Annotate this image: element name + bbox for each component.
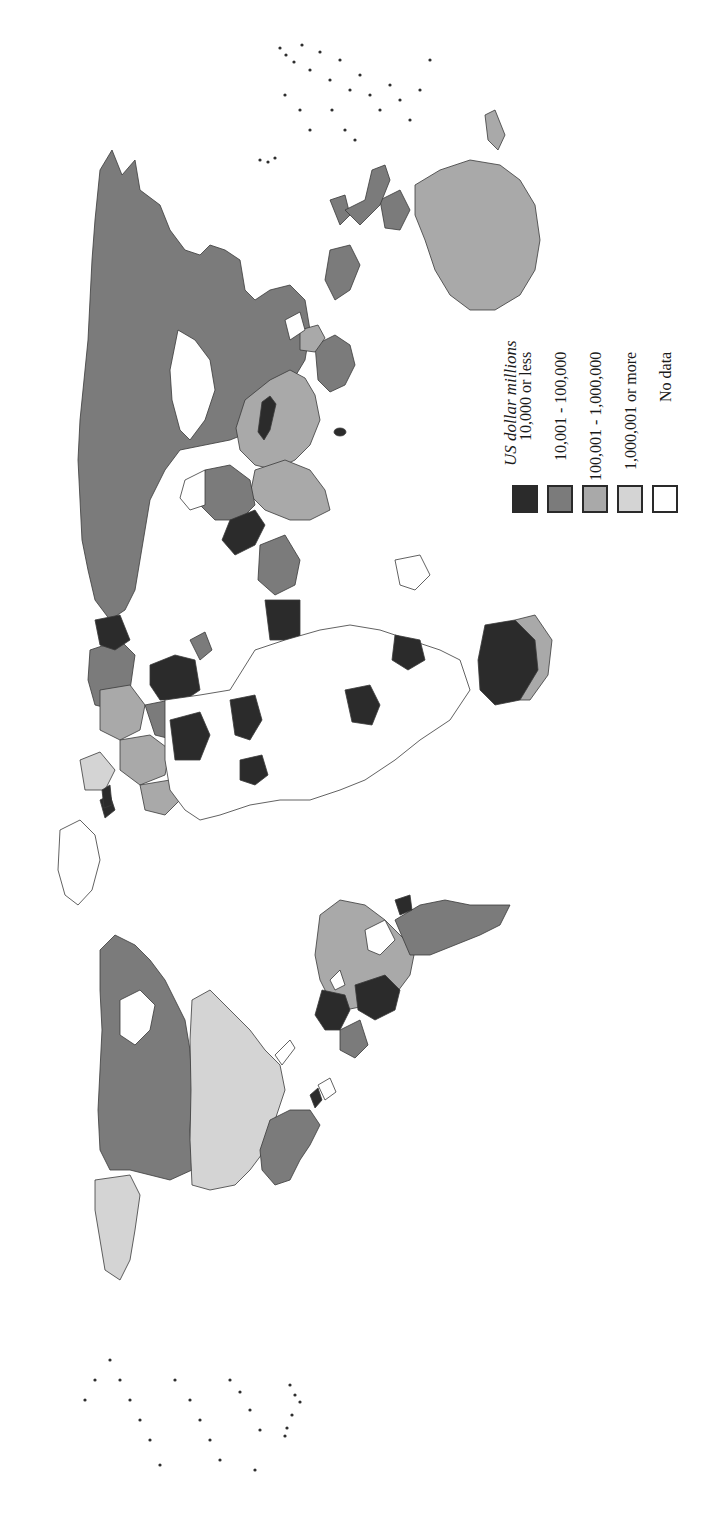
region-argentina — [395, 900, 510, 955]
region-canada — [98, 935, 192, 1180]
region-papua — [380, 190, 410, 230]
region-caucasus — [190, 632, 212, 660]
legend-item-no-data: No data — [650, 340, 682, 525]
region-turkey — [150, 655, 200, 700]
legend-label: 100,001 - 1,000,000 — [584, 352, 608, 480]
region-india — [250, 460, 330, 520]
region-egypt-area — [265, 600, 300, 640]
region-madagascar — [395, 555, 430, 590]
region-africa — [165, 625, 470, 820]
legend-label: 10,001 - 100,000 — [549, 352, 573, 480]
region-cuba — [275, 1040, 295, 1065]
region-indonesia — [325, 245, 360, 300]
legend-item-class-1: 10,000 or less — [510, 340, 542, 525]
legend-swatch — [582, 485, 608, 513]
legend-item-class-3: 100,001 - 1,000,000 — [580, 340, 612, 525]
pacific-islands-top — [258, 43, 431, 163]
legend-swatch — [547, 485, 573, 513]
region-peru — [340, 1020, 368, 1058]
world-choropleth-map: US dollar millions 10,000 or less 10,001… — [0, 0, 708, 1517]
region-greenland — [58, 820, 100, 905]
legend-item-class-4: 1,000,001 or more — [615, 340, 647, 525]
region-alaska — [95, 1175, 140, 1280]
region-germany-poland — [100, 685, 145, 740]
legend-swatch — [617, 485, 643, 513]
pacific-islands-bottom — [83, 1358, 301, 1471]
legend-label: No data — [654, 352, 678, 480]
region-iran — [200, 465, 255, 520]
legend-swatch — [652, 485, 678, 513]
region-sri-lanka — [334, 428, 346, 436]
map-legend: US dollar millions 10,000 or less 10,001… — [498, 340, 688, 525]
region-australia — [415, 160, 540, 310]
region-venezuela-colombia — [315, 990, 350, 1030]
legend-swatch — [512, 485, 538, 513]
legend-label: 10,000 or less — [514, 352, 538, 480]
region-afghanistan — [180, 470, 205, 510]
legend-label: 1,000,001 or more — [619, 352, 643, 480]
region-saudi — [258, 535, 300, 595]
map-canvas — [0, 0, 708, 1517]
region-france — [120, 735, 170, 785]
legend-item-class-2: 10,001 - 100,000 — [545, 340, 577, 525]
region-uk — [80, 752, 115, 790]
region-new-zealand — [485, 110, 505, 150]
region-central-america — [310, 1088, 322, 1108]
